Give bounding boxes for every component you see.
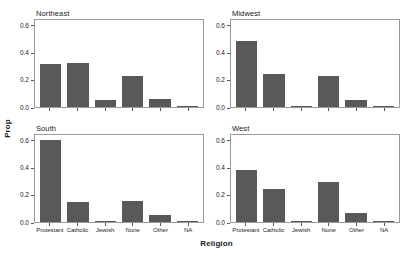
y-tick-label: 0.0 [20,220,31,227]
bar-other [149,215,170,222]
y-tick-label: 0.2 [20,77,31,84]
x-tick-mark [384,108,385,111]
x-tick-mark [273,223,274,226]
plot-area [230,19,400,108]
x-axis: ProtestantCatholicJewishNoneOtherNA [230,223,400,236]
panel-grid: Northeast 0.00.20.40.6 ProtestantCatholi… [14,8,400,236]
x-tick-mark [49,223,50,226]
bar-protestant [40,140,61,222]
bar-jewish [291,221,312,222]
x-tick-label: Other [153,227,168,234]
x-tick: NA [373,223,395,236]
panel-south: South 0.00.20.40.6 ProtestantCatholicJew… [14,123,204,236]
x-tick: Other [346,223,368,236]
plot-area [34,19,204,108]
x-tick-mark [188,108,189,111]
bar-protestant [236,41,257,107]
y-tick-label: 0.4 [20,50,31,57]
x-tick: None [318,223,340,236]
panel-west: West 0.00.20.40.6 ProtestantCatholicJewi… [210,123,400,236]
x-tick: None [122,108,144,121]
x-tick: NA [177,108,199,121]
bar-jewish [95,100,116,107]
x-tick: Other [150,108,172,121]
x-tick-label: Other [349,227,364,234]
x-tick-mark [384,223,385,226]
y-tick-label: 0.2 [20,192,31,199]
panel-title: West [230,123,400,134]
x-axis: ProtestantCatholicJewishNoneOtherNA [230,108,400,121]
y-tick-label: 0.0 [216,220,227,227]
x-tick: Jewish [94,223,116,236]
x-axis-title: Religion [33,239,400,248]
x-tick-mark [356,223,357,226]
x-tick: Protestant [235,223,257,236]
y-axis-title: Prop [0,0,14,257]
x-tick-label: Catholic [263,227,285,234]
y-tick-label: 0.6 [216,138,227,145]
y-tick-label: 0.0 [216,105,227,112]
bar-none [318,182,339,222]
x-axis: ProtestantCatholicJewishNoneOtherNA [34,108,204,121]
y-axis: 0.00.20.40.6 [210,19,230,108]
y-tick-label: 0.2 [216,77,227,84]
x-tick-mark [160,108,161,111]
x-tick-label: Catholic [67,227,89,234]
x-tick: Jewish [94,108,116,121]
x-tick-mark [132,223,133,226]
bar-series [35,20,203,107]
bar-other [345,213,366,222]
bar-protestant [40,64,61,107]
y-tick-label: 0.6 [20,138,31,145]
y-tick-label: 0.4 [20,165,31,172]
y-tick-label: 0.6 [20,23,31,30]
x-tick: Protestant [39,223,61,236]
x-tick: NA [373,108,395,121]
x-tick: Other [346,108,368,121]
plot-area [34,134,204,223]
x-tick-mark [328,108,329,111]
plot-area [230,134,400,223]
x-tick-mark [160,223,161,226]
bar-none [122,76,143,107]
bar-jewish [291,106,312,107]
x-tick-mark [301,108,302,111]
x-tick: Catholic [263,108,285,121]
bar-none [318,76,339,107]
y-tick-label: 0.4 [216,50,227,57]
y-tick-label: 0.2 [216,192,227,199]
x-tick: Catholic [67,108,89,121]
y-tick-label: 0.0 [20,105,31,112]
bar-na [177,221,198,222]
y-axis: 0.00.20.40.6 [14,19,34,108]
x-tick: Jewish [290,223,312,236]
x-tick-mark [105,108,106,111]
x-tick: Other [150,223,172,236]
bar-other [149,99,170,107]
x-tick-label: Jewish [292,227,310,234]
x-tick-mark [301,223,302,226]
bar-jewish [95,221,116,222]
x-tick-label: None [322,227,336,234]
bar-catholic [263,74,284,107]
bar-series [231,20,399,107]
x-tick: None [318,108,340,121]
panel-title: Northeast [34,8,204,19]
bar-catholic [263,189,284,222]
bar-series [35,135,203,222]
bar-none [122,201,143,222]
x-tick-mark [132,108,133,111]
bar-na [373,106,394,107]
bar-catholic [67,202,88,222]
x-axis: ProtestantCatholicJewishNoneOtherNA [34,223,204,236]
bar-other [345,100,366,107]
x-tick-mark [105,223,106,226]
x-tick: Jewish [290,108,312,121]
panel-northeast: Northeast 0.00.20.40.6 ProtestantCatholi… [14,8,204,121]
x-tick: Catholic [67,223,89,236]
bar-catholic [67,63,88,107]
y-axis: 0.00.20.40.6 [14,134,34,223]
panel-title: Midwest [230,8,400,19]
y-tick-label: 0.4 [216,165,227,172]
x-tick: None [122,223,144,236]
